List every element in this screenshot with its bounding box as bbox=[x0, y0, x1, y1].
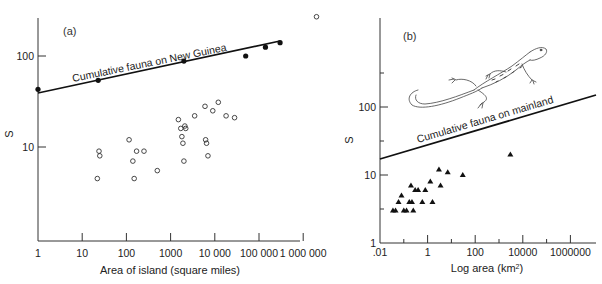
open-circle-point bbox=[142, 149, 147, 154]
x-tick-label: 1 bbox=[425, 246, 431, 258]
panel-a-x-axis-title: Area of island (square miles) bbox=[100, 264, 240, 276]
panel-a-cumulative-line bbox=[38, 41, 280, 93]
open-circle-point bbox=[95, 176, 100, 181]
x-tick-label: 10000 bbox=[508, 246, 537, 258]
panel-a-data-points bbox=[35, 14, 318, 180]
panel-b-x-axis-title-text: Log area (km bbox=[451, 262, 516, 274]
open-circle-point bbox=[232, 115, 237, 120]
lizard-illustration-icon bbox=[409, 48, 547, 108]
x-tick-label: 10 000 bbox=[199, 247, 231, 259]
panel-b-data-points bbox=[390, 152, 513, 213]
y-tick-label: 10 bbox=[364, 169, 376, 181]
filled-circle-point bbox=[263, 45, 268, 50]
figure: 110100100010 000100 0001 000 000 10100 (… bbox=[0, 0, 602, 284]
panel-a-line-label: Cumulative fauna on New Guinea bbox=[71, 41, 227, 84]
open-circle-point bbox=[182, 159, 187, 164]
x-tick-label: 100 bbox=[466, 246, 484, 258]
x-tick-label: 100 bbox=[118, 247, 136, 259]
filled-circle-point bbox=[35, 87, 40, 92]
x-tick-label: 1 bbox=[35, 247, 41, 259]
open-circle-point bbox=[224, 114, 229, 119]
open-circle-point bbox=[192, 114, 197, 119]
open-circle-point bbox=[203, 104, 208, 109]
panel-b-label: (b) bbox=[403, 30, 416, 42]
filled-triangle-point bbox=[408, 183, 414, 188]
panel-b-y-ticks: 110100 bbox=[358, 73, 388, 249]
panel-a-label: (a) bbox=[63, 25, 76, 37]
panel-b-x-ticks: .011100100001000000 bbox=[373, 235, 591, 258]
x-tick-label: 10 bbox=[76, 247, 88, 259]
panel-a-x-ticks: 110100100010 000100 0001 000 000 bbox=[35, 233, 327, 259]
open-circle-point bbox=[131, 159, 136, 164]
open-circle-point bbox=[181, 141, 186, 146]
panel-a-y-axis-title: S bbox=[3, 130, 15, 137]
filled-triangle-point bbox=[427, 179, 433, 184]
panel-a: 110100100010 000100 0001 000 000 10100 (… bbox=[3, 14, 327, 276]
y-tick-label: 1 bbox=[370, 237, 376, 249]
open-circle-point bbox=[216, 100, 221, 105]
x-tick-label: 1000000 bbox=[550, 246, 591, 258]
filled-triangle-point bbox=[422, 187, 428, 192]
y-tick-label: 10 bbox=[22, 141, 34, 153]
open-circle-point bbox=[132, 176, 137, 181]
filled-triangle-point bbox=[445, 169, 451, 174]
open-circle-point bbox=[127, 137, 132, 142]
panel-b-cumulative-line bbox=[380, 95, 596, 159]
open-circle-point bbox=[206, 154, 211, 159]
panel-b-y-axis-title: S bbox=[343, 136, 355, 143]
filled-circle-point bbox=[96, 78, 101, 83]
filled-triangle-point bbox=[410, 208, 416, 213]
filled-triangle-point bbox=[396, 199, 402, 204]
filled-triangle-point bbox=[507, 152, 513, 157]
filled-circle-point bbox=[277, 40, 282, 45]
open-circle-point bbox=[180, 134, 185, 139]
filled-triangle-point bbox=[438, 183, 444, 188]
panel-a-y-ticks: 10100 bbox=[16, 50, 46, 153]
open-circle-point bbox=[97, 149, 102, 154]
y-tick-label: 100 bbox=[358, 101, 376, 113]
filled-triangle-point bbox=[460, 172, 466, 177]
filled-circle-point bbox=[181, 58, 186, 63]
filled-triangle-point bbox=[419, 199, 425, 204]
open-circle-point bbox=[134, 149, 139, 154]
open-circle-point bbox=[155, 168, 160, 173]
open-circle-point bbox=[176, 117, 181, 122]
x-tick-label: 100 000 bbox=[240, 247, 278, 259]
filled-triangle-point bbox=[398, 192, 404, 197]
open-circle-point bbox=[314, 14, 319, 19]
panel-b: .011100100001000000 110100 (b) S Log are… bbox=[343, 18, 596, 274]
filled-triangle-point bbox=[429, 199, 435, 204]
filled-triangle-point bbox=[436, 167, 442, 172]
open-circle-point bbox=[97, 154, 102, 159]
x-tick-label: 1000 bbox=[159, 247, 183, 259]
y-tick-label: 100 bbox=[16, 50, 34, 62]
x-tick-label: 1 000 000 bbox=[280, 247, 327, 259]
panel-b-x-axis-title: Log area (km2) bbox=[451, 262, 523, 274]
filled-circle-point bbox=[243, 53, 248, 58]
panel-b-x-axis-title-end: ) bbox=[520, 262, 524, 274]
open-circle-point bbox=[210, 108, 215, 113]
